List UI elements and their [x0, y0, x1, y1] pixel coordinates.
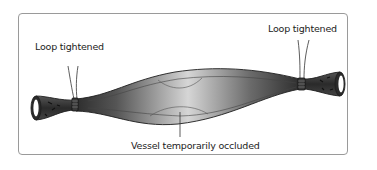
vessel-occluded-label: Vessel temporarily occluded — [131, 140, 260, 151]
left-tie-label: Loop tightened — [35, 41, 104, 52]
left-vessel-end — [31, 96, 76, 120]
right-vessel-end — [302, 72, 345, 96]
vessel-body — [76, 69, 300, 125]
right-tie-label: Loop tightened — [268, 23, 337, 34]
